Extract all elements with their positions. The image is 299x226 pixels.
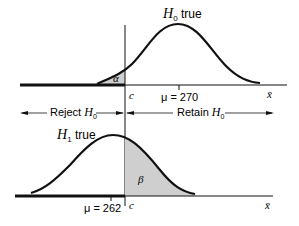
h0-true-label: H0 true xyxy=(163,6,202,23)
retain-prefix: Retain xyxy=(177,106,212,118)
beta-label: β xyxy=(138,173,143,185)
bottom-panel xyxy=(15,135,273,201)
bottom-mean-label: μ = 262 xyxy=(84,202,121,214)
reject-var: H xyxy=(84,105,93,119)
bottom-axis-label: x̄ xyxy=(265,199,270,211)
hypothesis-test-diagram xyxy=(0,0,299,226)
h0-suffix: true xyxy=(178,7,202,21)
beta-region xyxy=(125,137,195,196)
retain-h0-label: Retain H0 xyxy=(177,105,224,120)
bottom-c-label: c xyxy=(129,199,134,211)
reject-sub: 0 xyxy=(93,113,97,120)
alpha-label: α xyxy=(113,72,119,84)
h1-var: H xyxy=(57,127,67,142)
retain-var: H xyxy=(212,105,221,119)
reject-h0-label: Reject H0 xyxy=(50,105,97,120)
retain-sub: 0 xyxy=(221,113,225,120)
h0-var: H xyxy=(163,6,173,21)
h1-suffix: true xyxy=(72,128,96,142)
top-mean-label: μ = 270 xyxy=(161,91,198,103)
reject-prefix: Reject xyxy=(50,106,84,118)
h1-true-label: H1 true xyxy=(57,127,96,144)
top-panel xyxy=(20,24,287,90)
top-c-label: c xyxy=(129,89,134,101)
top-axis-label: x̄ xyxy=(267,88,272,100)
